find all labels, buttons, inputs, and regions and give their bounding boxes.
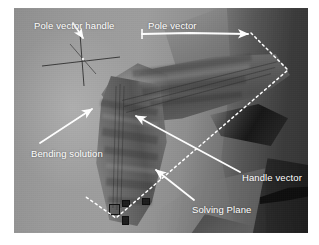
annotation-label-solving-plane: Solving Plane xyxy=(192,204,251,215)
annotation-overlay xyxy=(14,8,308,233)
annotation-label-pole-vector-handle: Pole vector handle xyxy=(34,20,115,31)
solving-plane-outline xyxy=(86,33,288,218)
arrow-solving-plane xyxy=(156,170,194,200)
screenshot-root: Pole vector handle Pole vector Bending s… xyxy=(0,0,319,245)
viewport-3d[interactable]: Pole vector handle Pole vector Bending s… xyxy=(14,8,308,233)
annotation-label-bending-solution: Bending solution xyxy=(31,148,103,159)
arrow-pole-vector xyxy=(142,33,248,34)
annotation-label-handle-vector: Handle vector xyxy=(242,172,302,183)
arrow-bending-solution xyxy=(40,109,92,143)
annotation-label-pole-vector: Pole vector xyxy=(148,20,197,31)
